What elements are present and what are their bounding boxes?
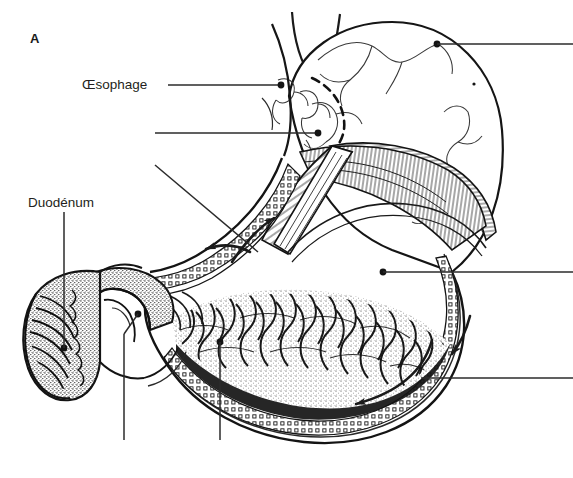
- stomach-illustration: [0, 0, 573, 478]
- fundus-marker-dot: [472, 82, 475, 85]
- leader-oblique-muscle: [155, 165, 258, 252]
- label-oesophage: Œsophage: [82, 78, 147, 92]
- cardia-fold: [262, 98, 273, 130]
- leader-oesophage-dot: [278, 82, 285, 89]
- panel-letter: A: [30, 31, 40, 46]
- anatomy-figure: A Œsophage Duodénum: [0, 0, 573, 478]
- leader-cardia-dot: [315, 130, 322, 137]
- cardia-left-wall: [272, 24, 291, 156]
- label-duodenum: Duodénum: [28, 196, 94, 210]
